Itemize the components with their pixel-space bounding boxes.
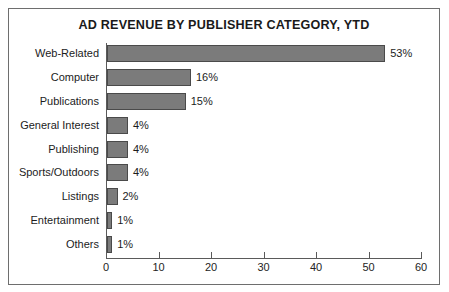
tick-label: 0 [103, 261, 109, 273]
tick-label: 20 [205, 261, 217, 273]
bar-value-label: 53% [390, 45, 412, 62]
bar [107, 236, 112, 253]
category-label: Others [9, 236, 99, 253]
bar-value-label: 1% [117, 212, 133, 229]
bar-row: Sports/Outdoors4% [9, 164, 441, 188]
bar-value-label: 4% [133, 164, 149, 181]
bar-value-label: 4% [133, 117, 149, 134]
category-label: General Interest [9, 117, 99, 134]
bar-row: Computer16% [9, 69, 441, 93]
category-label: Entertainment [9, 212, 99, 229]
bar [107, 93, 186, 110]
bar-row: Entertainment1% [9, 212, 441, 236]
bar-row: Publications15% [9, 93, 441, 117]
category-label: Publishing [9, 141, 99, 158]
tick-label: 40 [310, 261, 322, 273]
bar [107, 164, 128, 181]
bar-value-label: 2% [123, 188, 139, 205]
category-label: Web-Related [9, 45, 99, 62]
category-label: Sports/Outdoors [9, 164, 99, 181]
tick-label: 30 [257, 261, 269, 273]
bar-value-label: 1% [117, 236, 133, 253]
bar-value-label: 16% [196, 69, 218, 86]
bar-row: Web-Related53% [9, 45, 441, 69]
bar [107, 117, 128, 134]
bar-row: Listings2% [9, 188, 441, 212]
bar [107, 141, 128, 158]
bar-value-label: 15% [191, 93, 213, 110]
tick-label: 60 [415, 261, 427, 273]
tick-label: 10 [152, 261, 164, 273]
category-label: Publications [9, 93, 99, 110]
bar-row: Others1% [9, 236, 441, 260]
plot-area: 0102030405060 Web-Related53%Computer16%P… [9, 43, 441, 286]
bar-row: General Interest4% [9, 117, 441, 141]
bar [107, 69, 191, 86]
category-label: Listings [9, 188, 99, 205]
tick-label: 50 [362, 261, 374, 273]
category-label: Computer [9, 69, 99, 86]
bar-value-label: 4% [133, 141, 149, 158]
bar [107, 212, 112, 229]
chart-title: AD REVENUE BY PUBLISHER CATEGORY, YTD [9, 18, 439, 32]
bar-row: Publishing4% [9, 141, 441, 165]
bar [107, 188, 118, 205]
bar [107, 45, 385, 62]
chart-figure: AD REVENUE BY PUBLISHER CATEGORY, YTD 01… [8, 8, 440, 285]
